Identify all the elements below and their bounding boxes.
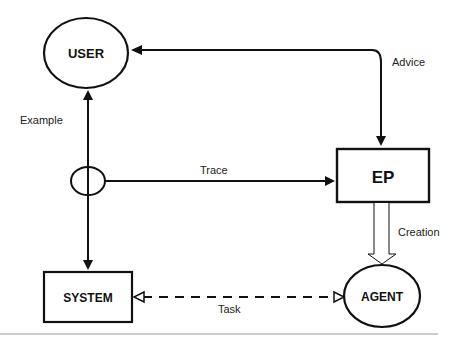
edge-advice-label: Advice xyxy=(392,56,425,68)
node-ep-label: EP xyxy=(372,168,395,187)
edge-creation-label: Creation xyxy=(398,226,440,238)
edge-trace-label: Trace xyxy=(200,164,228,176)
diagram-canvas: USER Example Trace Advice EP Creation SY… xyxy=(0,0,454,344)
edge-task-head-system xyxy=(134,292,144,302)
edge-task-label: Task xyxy=(218,303,241,315)
edge-creation-arrow xyxy=(368,203,396,264)
node-system-label: SYSTEM xyxy=(63,291,112,305)
node-user-label: USER xyxy=(68,46,105,61)
node-agent: AGENT xyxy=(344,265,420,327)
edge-advice-line xyxy=(133,50,381,144)
edge-task-head-agent xyxy=(334,292,344,302)
node-system: SYSTEM xyxy=(44,272,132,322)
edge-example-label: Example xyxy=(20,114,63,126)
node-ep: EP xyxy=(337,149,429,202)
edge-advice-head-user xyxy=(131,45,142,55)
node-agent-label: AGENT xyxy=(361,290,404,304)
node-user: USER xyxy=(44,18,128,88)
